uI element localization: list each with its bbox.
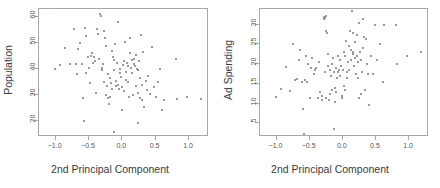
- data-point: [87, 56, 89, 58]
- data-point: [186, 96, 188, 98]
- data-point: [79, 42, 81, 44]
- data-point: [76, 73, 78, 75]
- data-point: [396, 63, 398, 65]
- y-axis-tick-label: 40: [29, 57, 36, 77]
- data-point: [111, 88, 113, 90]
- data-point: [117, 21, 119, 23]
- data-point: [332, 57, 334, 59]
- data-point: [324, 71, 326, 73]
- data-point: [339, 59, 341, 61]
- y-axis-tick-label: 25: [250, 32, 257, 52]
- data-point: [84, 27, 86, 29]
- x-axis-tick: [188, 136, 189, 140]
- data-point: [331, 63, 333, 65]
- data-point: [354, 41, 356, 43]
- data-point: [329, 93, 331, 95]
- data-point: [113, 59, 115, 61]
- data-point: [109, 77, 111, 79]
- data-point: [334, 87, 336, 89]
- data-point: [337, 55, 339, 57]
- data-point: [325, 97, 327, 99]
- x-axis-tick: [121, 136, 122, 140]
- data-point: [97, 33, 99, 35]
- data-point: [141, 84, 143, 86]
- data-point: [95, 92, 97, 94]
- data-point: [326, 32, 328, 34]
- data-point: [382, 81, 384, 83]
- data-point: [352, 53, 354, 55]
- data-point: [146, 89, 148, 91]
- data-point: [358, 97, 360, 99]
- data-point: [343, 85, 345, 87]
- panel-population: Population −1.0−0.50.00.51.02030405060 2…: [0, 0, 220, 188]
- data-point: [321, 99, 323, 101]
- data-point: [137, 122, 139, 124]
- data-point: [113, 69, 115, 71]
- data-point: [106, 85, 108, 87]
- y-axis-tick-label: 30: [29, 83, 36, 103]
- data-point: [132, 94, 134, 96]
- data-point: [103, 81, 105, 83]
- data-point: [159, 68, 161, 70]
- data-point: [118, 88, 120, 90]
- data-point: [135, 54, 137, 56]
- data-point: [321, 95, 323, 97]
- data-point: [130, 67, 132, 69]
- data-point: [101, 69, 103, 71]
- data-point: [352, 32, 354, 34]
- data-point: [327, 65, 329, 67]
- data-point: [344, 55, 346, 57]
- data-point: [342, 69, 344, 71]
- panel-ad-spending: Ad Spending −1.0−0.50.00.51.051015202530…: [220, 0, 440, 188]
- data-point: [307, 63, 309, 65]
- data-point: [350, 59, 352, 61]
- x-axis-tick: [276, 136, 277, 140]
- data-point: [129, 37, 131, 39]
- data-point: [114, 43, 116, 45]
- data-point: [353, 65, 355, 67]
- data-point: [344, 89, 346, 91]
- y-axis-label-population: Population: [2, 45, 14, 95]
- data-point: [379, 43, 381, 45]
- data-point: [348, 69, 350, 71]
- data-point: [129, 52, 131, 54]
- data-point: [115, 80, 117, 82]
- data-point: [325, 15, 327, 17]
- data-point: [335, 91, 337, 93]
- data-point: [123, 60, 125, 62]
- data-point: [302, 108, 304, 110]
- data-point: [333, 71, 335, 73]
- data-point: [131, 72, 133, 74]
- data-point: [374, 24, 376, 26]
- data-point: [85, 72, 87, 74]
- data-point: [59, 64, 61, 66]
- data-point: [337, 71, 339, 73]
- data-point: [77, 48, 79, 50]
- y-axis-tick-label: 20: [250, 52, 257, 72]
- scatter-points-ad-spending: [260, 9, 427, 135]
- x-axis-tick: [88, 136, 89, 140]
- data-point: [64, 47, 66, 49]
- data-point: [354, 57, 356, 59]
- x-axis-label-ad-spending: 2nd Principal Component: [220, 163, 440, 175]
- data-point: [96, 28, 98, 30]
- data-point: [365, 38, 367, 40]
- data-point: [137, 92, 139, 94]
- data-point: [352, 51, 354, 53]
- plot-frame-population: [38, 8, 208, 136]
- data-point: [348, 45, 350, 47]
- data-point: [101, 67, 103, 69]
- data-point: [317, 97, 319, 99]
- data-point: [93, 56, 95, 58]
- data-point: [105, 45, 107, 47]
- data-point: [328, 99, 330, 101]
- data-point: [313, 73, 315, 75]
- data-point: [200, 98, 202, 100]
- data-point: [119, 72, 121, 74]
- data-point: [292, 43, 294, 45]
- y-axis-tick-label: 50: [29, 30, 36, 50]
- data-point: [306, 81, 308, 83]
- data-point: [151, 46, 153, 48]
- data-point: [126, 62, 128, 64]
- data-point: [370, 55, 372, 57]
